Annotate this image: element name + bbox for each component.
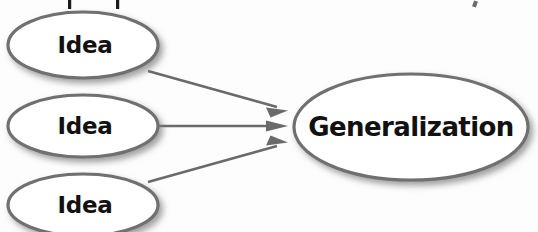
idea-3-label: Idea	[58, 192, 113, 218]
arrow-idea1-to-generalization	[148, 71, 288, 118]
arrow-idea2-to-generalization	[157, 121, 288, 132]
arrow-group	[148, 71, 288, 182]
arrow-head-1	[266, 108, 288, 118]
arrow-line-3	[148, 146, 277, 182]
cropped-text-fragments	[68, 0, 478, 9]
arrow-idea3-to-generalization	[148, 136, 288, 183]
node-idea-2[interactable]: Idea	[8, 95, 158, 157]
node-idea-1[interactable]: Idea	[8, 12, 158, 78]
crop-fragment-1	[68, 0, 71, 9]
arrow-line-1	[148, 71, 277, 107]
diagram-canvas: Generalization Idea Idea Idea	[0, 0, 538, 232]
arrow-head-2	[266, 121, 288, 132]
concept-map-svg: Generalization Idea Idea Idea	[0, 0, 538, 232]
node-generalization[interactable]: Generalization	[294, 74, 528, 180]
idea-2-label: Idea	[58, 113, 113, 139]
arrow-head-3	[266, 136, 288, 146]
idea-1-label: Idea	[58, 32, 113, 58]
generalization-label: Generalization	[308, 112, 513, 142]
node-idea-3[interactable]: Idea	[8, 174, 158, 232]
crop-fragment-3	[472, 0, 478, 7]
crop-fragment-2	[116, 0, 119, 9]
